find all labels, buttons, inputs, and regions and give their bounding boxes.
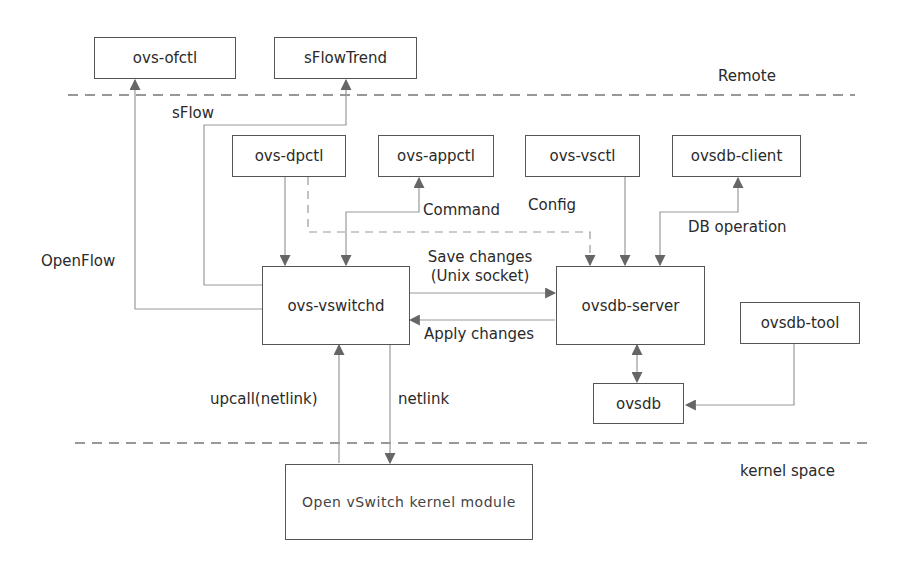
- tool-ovsdb-edge: [686, 344, 794, 405]
- command-edge: [346, 178, 419, 265]
- edge-label-openflow: OpenFlow: [41, 252, 115, 270]
- node-label: ovs-ofctl: [133, 49, 197, 67]
- edge-label-config: Config: [528, 196, 576, 214]
- edge-label-db-operation: DB operation: [688, 218, 787, 236]
- node-ovs-ofctl: ovs-ofctl: [94, 37, 236, 79]
- node-ovsdb-tool: ovsdb-tool: [740, 302, 860, 344]
- node-label: ovs-appctl: [397, 147, 475, 165]
- edge-label-sflow: sFlow: [172, 104, 214, 122]
- node-ovs-vswitchd: ovs-vswitchd: [262, 266, 410, 345]
- node-label: ovsdb: [616, 395, 661, 413]
- node-label: ovsdb-server: [582, 297, 680, 315]
- edge-label-netlink: netlink: [398, 390, 449, 408]
- node-label: ovsdb-client: [691, 147, 783, 165]
- node-label: Open vSwitch kernel module: [302, 494, 516, 510]
- node-ovsdb-server: ovsdb-server: [556, 266, 705, 345]
- node-ovs-dpctl: ovs-dpctl: [232, 135, 346, 177]
- node-ovs-appctl: ovs-appctl: [378, 135, 494, 177]
- node-ovsdb-client: ovsdb-client: [672, 135, 801, 177]
- zone-label-remote: Remote: [718, 67, 776, 85]
- node-kernel-module: Open vSwitch kernel module: [285, 464, 533, 540]
- node-label: ovs-vsctl: [550, 147, 616, 165]
- save-changes-line1: Save changes: [415, 248, 545, 267]
- node-label: ovs-vswitchd: [287, 297, 384, 315]
- node-ovsdb: ovsdb: [593, 383, 684, 424]
- zone-label-kernel: kernel space: [740, 462, 835, 480]
- node-ovs-vsctl: ovs-vsctl: [525, 135, 640, 177]
- sflow-edge: [204, 80, 346, 285]
- edge-label-save-changes: Save changes (Unix socket): [415, 248, 545, 286]
- edge-label-upcall: upcall(netlink): [210, 390, 318, 408]
- save-changes-line2: (Unix socket): [415, 267, 545, 286]
- edge-label-command: Command: [423, 201, 500, 219]
- node-sflowtrend: sFlowTrend: [274, 37, 417, 79]
- node-label: ovs-dpctl: [255, 147, 324, 165]
- edge-label-apply-changes: Apply changes: [424, 325, 534, 343]
- node-label: ovsdb-tool: [761, 314, 840, 332]
- node-label: sFlowTrend: [304, 49, 387, 67]
